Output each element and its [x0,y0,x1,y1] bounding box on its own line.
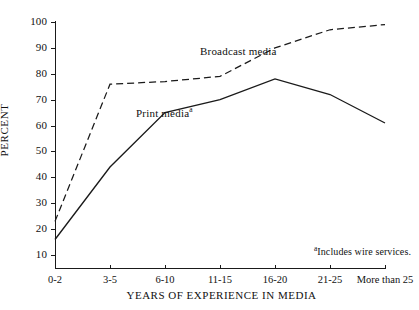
x-tick-label-6: More than 25 [354,274,416,286]
footnote-text: Includes wire services. [317,246,411,257]
x-axis-title: YEARS OF EXPERIENCE IN MEDIA [0,289,419,301]
series-label-broadcast-text: Broadcast media [200,45,277,57]
x-tick-label-0: 0-2 [32,274,78,286]
x-tick-label-2: 6-10 [142,274,188,286]
x-tick-label-3: 11-15 [197,274,243,286]
chart-figure: PERCENT 102030405060708090100 0-23-56-10… [0,0,419,310]
x-tick-label-5: 21-25 [307,274,353,286]
series-label-print: Print mediaa [136,107,193,119]
series-label-broadcast: Broadcast media [200,45,277,57]
series-label-print-marker: a [189,105,193,114]
series-line-print [55,79,385,240]
footnote: aIncludes wire services. [314,246,411,257]
x-tick-label-4: 16-20 [252,274,298,286]
series-label-print-text: Print media [136,107,189,119]
x-tick-label-1: 3-5 [87,274,133,286]
